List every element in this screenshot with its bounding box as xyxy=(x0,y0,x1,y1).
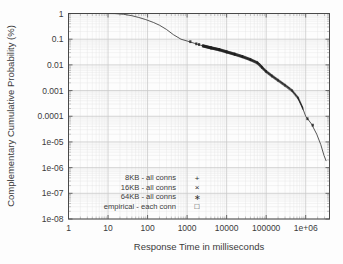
y-tick-label: 1e-05 xyxy=(42,137,64,147)
data-series-layer xyxy=(69,14,327,162)
x-tick-label: 1000 xyxy=(178,223,197,233)
y-tick-label: 1e-07 xyxy=(42,188,64,198)
x-tick-label: 100000 xyxy=(252,223,281,233)
legend-item-label: 64KB - all conns xyxy=(121,192,176,201)
y-tick-label: 0.01 xyxy=(47,60,64,70)
data-marker xyxy=(306,117,308,120)
legend-marker-icon: ∗ xyxy=(194,193,201,202)
x-tick-label: 10000 xyxy=(215,223,239,233)
x-tick-label: 1e+06 xyxy=(294,223,318,233)
data-marker xyxy=(312,124,314,127)
x-axis-tick-labels: 1101001000100001000001e+06 xyxy=(66,223,318,233)
x-tick-label: 100 xyxy=(140,223,154,233)
legend-marker-icon: + xyxy=(195,174,200,183)
legend: 8KB - all conns+16KB - all conns×64KB - … xyxy=(104,173,201,211)
chart-figure: 1101001000100001000001e+06 10.10.010.001… xyxy=(0,0,343,264)
x-tick-label: 10 xyxy=(103,223,113,233)
data-marker xyxy=(302,107,303,110)
legend-marker-icon: × xyxy=(195,183,200,192)
y-axis-tick-labels: 10.10.010.0010.00011e-051e-061e-071e-08 xyxy=(38,9,64,225)
y-tick-label: 1 xyxy=(59,9,64,19)
ccdf-log-log-plot: 1101001000100001000001e+06 10.10.010.001… xyxy=(0,0,343,264)
x-axis-title: Response Time in milliseconds xyxy=(134,241,265,252)
y-tick-label: 1e-06 xyxy=(42,163,64,173)
y-tick-label: 0.0001 xyxy=(38,111,64,121)
y-tick-label: 1e-08 xyxy=(42,214,64,224)
data-marker xyxy=(189,40,191,43)
y-axis-title: Complementary Cumulative Probability (%) xyxy=(5,25,16,207)
legend-marker-icon: □ xyxy=(195,202,200,211)
legend-item-label: 16KB - all conns xyxy=(121,183,176,192)
data-marker xyxy=(195,42,197,45)
x-tick-label: 1 xyxy=(66,223,71,233)
legend-item-label: empirical - each conn xyxy=(104,202,176,211)
data-marker xyxy=(198,43,200,46)
legend-item-label: 8KB - all conns xyxy=(125,173,176,182)
y-tick-label: 0.1 xyxy=(52,34,64,44)
y-tick-label: 0.001 xyxy=(42,86,64,96)
